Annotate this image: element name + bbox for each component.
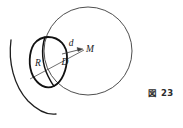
figure-caption: 図 23 [148,86,174,98]
figure-drawing: d M D R [0,0,183,128]
figure-container: d M D R 図 23 [0,0,183,128]
label-r: R [34,58,41,68]
label-d-point: D [61,57,69,67]
label-m: M [85,44,95,54]
label-d: d [69,38,74,48]
